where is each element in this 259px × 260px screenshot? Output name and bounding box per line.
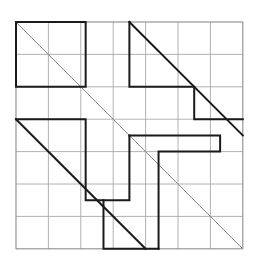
top-right-step — [129, 22, 242, 119]
tiling-diagram — [0, 0, 259, 260]
bottom-middle-step — [103, 200, 158, 249]
figure-root — [0, 0, 259, 260]
center-left-step — [16, 119, 129, 200]
center-right-step — [129, 135, 220, 248]
